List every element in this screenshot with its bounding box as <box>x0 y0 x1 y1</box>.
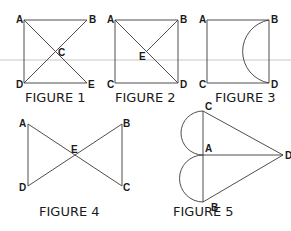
point-label-e: E <box>88 79 95 90</box>
point-label-c: C <box>205 101 212 112</box>
figure-5: C A B D FIGURE 5 <box>173 101 291 219</box>
figure-2: A B C D E FIGURE 2 <box>107 14 187 105</box>
point-label-a: A <box>199 14 206 25</box>
figure-caption: FIGURE 1 <box>25 90 86 105</box>
point-label-d: D <box>19 182 26 193</box>
point-label-b: B <box>123 118 130 129</box>
figure-caption: FIGURE 2 <box>115 90 176 105</box>
point-label-b: B <box>180 14 187 25</box>
point-label-d: D <box>180 79 187 90</box>
segment-be <box>146 20 178 52</box>
point-label-a: A <box>16 14 23 25</box>
figure-caption: FIGURE 4 <box>39 204 100 219</box>
point-label-a: A <box>19 118 26 129</box>
segment-bd <box>203 155 283 202</box>
point-label-d: D <box>271 79 278 90</box>
segment-cd <box>203 111 283 155</box>
figure-caption: FIGURE 5 <box>173 204 234 219</box>
point-label-e: E <box>139 51 146 62</box>
point-label-c: C <box>107 79 114 90</box>
figure-3: A B C D FIGURE 3 <box>199 14 278 105</box>
geometry-figures-diagram: A B C D E FIGURE 1 A B C D E FIGURE 2 A … <box>0 0 291 231</box>
point-label-c: C <box>199 79 206 90</box>
point-label-b: B <box>89 14 96 25</box>
figure-caption: FIGURE 3 <box>215 90 276 105</box>
point-label-a: A <box>205 143 212 154</box>
semicircle-arc-ab <box>180 155 203 202</box>
point-label-a: A <box>107 14 114 25</box>
point-label-c: C <box>123 182 130 193</box>
point-label-b: B <box>271 14 278 25</box>
point-label-d: D <box>16 79 23 90</box>
point-label-d: D <box>285 150 291 161</box>
semicircle-arc-ca <box>181 111 203 155</box>
figure-1: A B C D E FIGURE 1 <box>16 14 96 105</box>
figure-4: A B C D E FIGURE 4 <box>19 118 130 219</box>
semicircle-arc-bd <box>243 20 269 83</box>
point-label-c: C <box>58 47 65 58</box>
point-label-e: E <box>71 144 78 155</box>
